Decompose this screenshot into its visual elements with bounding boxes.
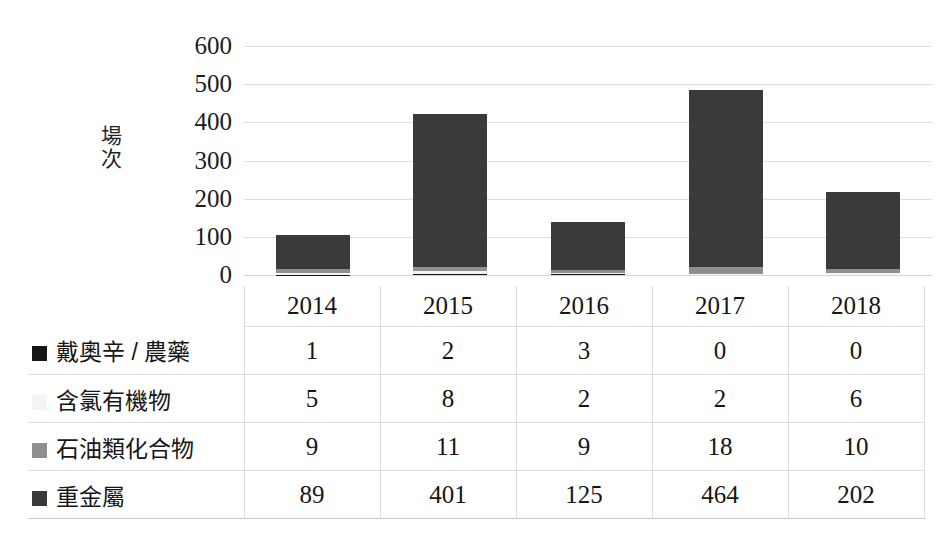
table-cell-r1-c1: 8 [380,375,516,423]
bar-column-2015 [382,46,520,275]
table-cell-r1-c2: 2 [516,375,652,423]
table-cell-r2-c4: 10 [788,423,924,471]
legend-label-2: 石油類化合物 [56,436,194,462]
bar-segment-2017-series-2 [689,267,763,274]
bar-column-2017 [657,46,795,275]
table-cell-r3-c0: 89 [244,471,380,519]
bar-stack-2016[interactable] [551,222,625,275]
data-table: 20142015201620172018 戴奧辛 / 農藥12300含氯有機物5… [28,286,925,519]
table-header-year-2017: 2017 [652,286,788,327]
y-axis-label: 場 次 [97,125,125,171]
y-tick-400: 400 [142,109,232,134]
swatch-dioxin-pesticide-icon [32,346,47,361]
legend-entry-1: 含氯有機物 [28,375,244,423]
swatch-petroleum-compounds-icon [32,443,47,458]
bar-segment-2014-series-3 [276,235,350,269]
legend-entry-3: 重金屬 [28,471,244,519]
data-table-wrapper: 20142015201620172018 戴奧辛 / 農藥12300含氯有機物5… [28,286,924,524]
legend-entry-2: 石油類化合物 [28,423,244,471]
bar-segment-2018-series-3 [826,192,900,269]
y-tick-500: 500 [142,71,232,96]
data-table-body: 戴奧辛 / 農藥12300含氯有機物58226石油類化合物91191810重金屬… [28,327,924,519]
bar-stack-2017[interactable] [689,90,763,275]
table-cell-r3-c4: 202 [788,471,924,519]
bar-column-2018 [794,46,932,275]
table-header-year-2014: 2014 [244,286,380,327]
table-row: 重金屬89401125464202 [28,471,924,519]
bar-stack-2014[interactable] [276,235,350,275]
table-cell-r0-c4: 0 [788,327,924,375]
y-axis-tick-labels: 6005004003002001000 [140,0,232,300]
table-cell-r0-c3: 0 [652,327,788,375]
table-cell-r3-c3: 464 [652,471,788,519]
bar-stack-2015[interactable] [413,114,487,275]
table-header-year-2018: 2018 [788,286,924,327]
bar-stack-2018[interactable] [826,192,900,275]
legend-label-3: 重金屬 [56,484,125,510]
bar-segment-2018-series-1 [826,273,900,275]
bar-segment-2015-series-3 [413,114,487,267]
bar-column-2014 [244,46,382,275]
y-tick-100: 100 [142,224,232,249]
table-cell-r2-c0: 9 [244,423,380,471]
table-cell-r2-c1: 11 [380,423,516,471]
y-axis-label-char-2: 次 [97,148,125,171]
table-cell-r0-c2: 3 [516,327,652,375]
legend-entry-0: 戴奧辛 / 農藥 [28,327,244,375]
gridline-0 [244,275,932,276]
y-tick-0: 0 [142,262,232,287]
table-header-row: 20142015201620172018 [28,286,924,327]
y-tick-300: 300 [142,148,232,173]
bar-segment-2017-series-1 [689,274,763,275]
bar-segment-2016-series-0 [551,274,625,275]
bar-segment-2017-series-3 [689,90,763,267]
y-tick-600: 600 [142,33,232,58]
swatch-heavy-metals-icon [32,491,47,506]
legend-label-0: 戴奧辛 / 農藥 [56,339,190,365]
table-corner-cell [28,286,244,327]
swatch-chlorinated-organics-icon [32,395,47,410]
table-cell-r1-c0: 5 [244,375,380,423]
table-cell-r0-c0: 1 [244,327,380,375]
y-tick-200: 200 [142,186,232,211]
table-header-year-2015: 2015 [380,286,516,327]
table-cell-r0-c1: 2 [380,327,516,375]
table-row: 石油類化合物91191810 [28,423,924,471]
plot-area [244,46,932,275]
bar-column-2016 [519,46,657,275]
data-table-head: 20142015201620172018 [28,286,924,327]
table-cell-r2-c2: 9 [516,423,652,471]
table-row: 含氯有機物58226 [28,375,924,423]
table-cell-r1-c4: 6 [788,375,924,423]
table-cell-r3-c2: 125 [516,471,652,519]
table-cell-r2-c3: 18 [652,423,788,471]
legend-label-1: 含氯有機物 [56,388,171,414]
table-cell-r3-c1: 401 [380,471,516,519]
stacked-bar-chart-with-data-table: 場 次 6005004003002001000 2014201520162017… [0,0,945,549]
table-header-year-2016: 2016 [516,286,652,327]
table-row: 戴奧辛 / 農藥12300 [28,327,924,375]
bar-segment-2016-series-3 [551,222,625,270]
table-cell-r1-c3: 2 [652,375,788,423]
bar-segment-2015-series-0 [413,274,487,275]
y-axis-label-char-1: 場 [97,125,125,148]
